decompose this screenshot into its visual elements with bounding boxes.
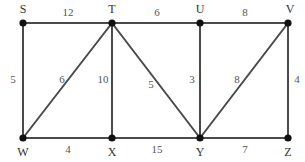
graph-node-y (196, 134, 203, 141)
edge-weight-y-z: 7 (242, 143, 248, 155)
edge-weight-u-v: 8 (242, 6, 248, 18)
edge-weight-t-x: 10 (98, 73, 110, 85)
graph-node-t (108, 19, 115, 26)
graph-edge-v-y (200, 23, 288, 138)
graph-canvas: 1268561053844157 STUVWXYZ (0, 0, 305, 162)
edge-weight-w-x: 4 (65, 143, 71, 155)
edge-weight-v-y: 8 (234, 73, 240, 85)
edge-weight-s-w: 5 (10, 73, 16, 85)
node-label-u: U (196, 2, 205, 16)
graph-node-x (108, 134, 115, 141)
graph-node-z (284, 134, 291, 141)
edge-weight-t-w: 6 (59, 73, 65, 85)
graph-node-v (284, 19, 291, 26)
graph-edge-t-y (112, 23, 200, 138)
graph-node-w (19, 134, 26, 141)
edge-weight-s-t: 12 (63, 6, 74, 18)
edge-weight-x-y: 15 (152, 143, 164, 155)
graph-node-u (196, 19, 203, 26)
node-label-y: Y (196, 145, 205, 159)
weighted-graph-figure: 1268561053844157 STUVWXYZ (0, 0, 305, 162)
node-label-v: V (286, 2, 295, 16)
edge-weight-u-y: 3 (189, 73, 195, 85)
node-label-x: X (108, 145, 117, 159)
graph-node-s (19, 19, 26, 26)
edge-weight-t-u: 6 (154, 6, 160, 18)
node-label-t: T (108, 2, 116, 16)
edge-weight-t-y: 5 (148, 78, 154, 90)
node-label-w: W (17, 145, 29, 159)
edge-weight-v-z: 4 (294, 73, 300, 85)
node-label-z: Z (284, 145, 291, 159)
node-label-s: S (20, 2, 27, 16)
